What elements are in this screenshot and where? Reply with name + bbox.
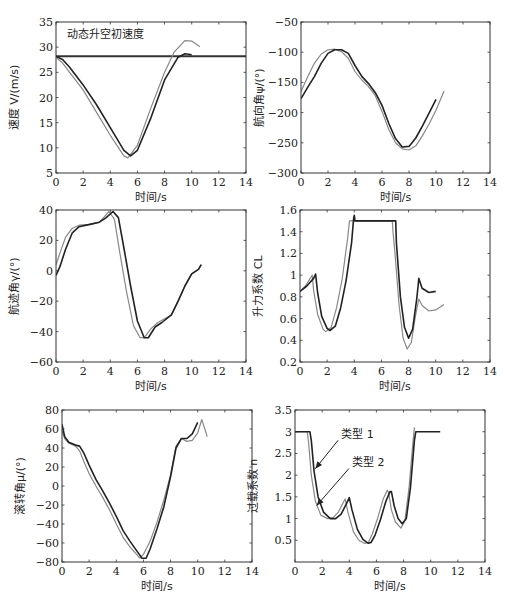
x-tick-label: 6 [373, 565, 380, 578]
x-tick-label: 12 [456, 176, 470, 189]
axes-frame [56, 22, 246, 173]
y-tick-label: 1.4 [280, 226, 298, 239]
y-tick-label: 1.6 [280, 204, 298, 217]
x-tick-label: 0 [59, 565, 66, 578]
y-tick-label: −100 [268, 46, 298, 59]
axes-frame [62, 410, 252, 562]
y-tick-label: 10 [39, 142, 53, 155]
x-tick-label: 0 [297, 365, 304, 378]
annotation-text: 类型 2 [352, 455, 385, 469]
series-line [295, 432, 440, 544]
series-line [56, 212, 201, 338]
y-tick-label: 30 [39, 41, 53, 54]
x-tick-label: 8 [167, 565, 174, 578]
x-tick-label: 12 [218, 565, 232, 578]
x-tick-label: 4 [346, 565, 353, 578]
x-tick-label: 2 [324, 365, 331, 378]
x-tick-label: 8 [161, 365, 168, 378]
subplot-lift-coefficient: 024681012140.20.40.60.811.21.41.6时间/s升力系… [252, 204, 497, 393]
x-axis-label: 时间/s [141, 580, 173, 593]
y-tick-label: 2 [285, 469, 292, 482]
figure-canvas: 024681012145101520253035动态升空初速度时间/s速度 V/… [0, 0, 510, 602]
subplot-speed: 024681012145101520253035动态升空初速度时间/s速度 V/… [7, 16, 253, 204]
x-tick-label: 8 [400, 565, 407, 578]
y-tick-label: −250 [268, 137, 298, 150]
y-tick-label: 15 [39, 117, 53, 130]
x-tick-label: 0 [292, 565, 299, 578]
x-tick-label: 10 [424, 565, 438, 578]
x-tick-label: 2 [319, 565, 326, 578]
y-tick-label: −300 [268, 167, 298, 180]
x-tick-label: 14 [483, 176, 497, 189]
y-tick-label: −200 [268, 107, 298, 120]
y-tick-label: −80 [36, 556, 59, 569]
x-tick-label: 8 [161, 176, 168, 189]
y-tick-label: −60 [30, 356, 53, 369]
x-axis-label: 时间/s [135, 191, 167, 204]
x-tick-label: 10 [185, 365, 199, 378]
x-tick-label: 4 [113, 565, 120, 578]
x-tick-label: 6 [140, 565, 147, 578]
x-axis-label: 时间/s [379, 380, 411, 393]
y-tick-label: 1 [285, 513, 292, 526]
y-tick-label: 0.4 [280, 334, 298, 347]
x-tick-label: 10 [429, 176, 443, 189]
x-tick-label: 0 [53, 365, 60, 378]
y-tick-label: −50 [275, 16, 298, 29]
x-tick-label: 2 [80, 365, 87, 378]
x-tick-label: 0 [298, 176, 305, 189]
y-tick-label: 3.5 [275, 404, 293, 417]
x-tick-label: 12 [451, 565, 465, 578]
y-tick-label: 20 [39, 234, 53, 247]
y-tick-label: 0 [46, 265, 53, 278]
x-tick-label: 0 [53, 176, 60, 189]
series-line [56, 54, 192, 156]
x-tick-label: 12 [456, 365, 470, 378]
y-tick-label: 0.8 [280, 291, 298, 304]
x-tick-label: 6 [134, 365, 141, 378]
x-tick-label: 6 [134, 176, 141, 189]
x-tick-label: 14 [239, 365, 253, 378]
subplot-heading: 02468101214−300−250−200−150−100−50时间/s航向… [252, 16, 497, 204]
y-tick-label: 40 [39, 204, 53, 217]
y-tick-label: −60 [36, 537, 59, 550]
series-line [301, 49, 444, 150]
x-tick-label: 14 [478, 565, 492, 578]
subplot-roll-angle: 02468101214−80−60−40−20020406080时间/s滚转角μ… [13, 404, 259, 593]
y-tick-label: 0 [52, 480, 59, 493]
x-tick-label: 2 [80, 176, 87, 189]
y-tick-label: 2.5 [275, 447, 293, 460]
series-line [62, 422, 198, 558]
annotation-text: 类型 1 [341, 427, 374, 441]
y-tick-label: −40 [36, 518, 59, 531]
x-tick-label: 6 [379, 176, 386, 189]
y-tick-label: 0.2 [280, 356, 298, 369]
x-axis-label: 时间/s [135, 380, 167, 393]
y-tick-label: −40 [30, 326, 53, 339]
x-tick-label: 4 [351, 365, 358, 378]
y-axis-label: 过载系数 n [247, 459, 260, 513]
y-axis-label: 升力系数 CL [252, 254, 265, 316]
y-tick-label: 3 [285, 426, 292, 439]
series-line [295, 427, 414, 543]
subplot-load-factor: 024681012140.511.522.533.5类型 1类型 2时间/s过载… [247, 404, 492, 593]
y-tick-label: 20 [39, 92, 53, 105]
x-tick-label: 6 [378, 365, 385, 378]
y-axis-label: 航向角ψ/(°) [252, 68, 266, 126]
y-tick-label: 35 [39, 16, 53, 29]
y-tick-label: 0.5 [275, 534, 293, 547]
series-line [301, 50, 436, 147]
x-tick-label: 10 [191, 565, 205, 578]
y-axis-label: 航迹角γ/(°) [7, 257, 21, 314]
x-axis-label: 时间/s [374, 580, 406, 593]
y-tick-label: 1 [290, 269, 297, 282]
x-tick-label: 12 [212, 365, 226, 378]
x-tick-label: 4 [352, 176, 359, 189]
x-tick-label: 8 [405, 365, 412, 378]
x-axis-label: 时间/s [380, 191, 412, 204]
y-tick-label: −20 [36, 499, 59, 512]
subplot-flight-path-angle: 02468101214−60−40−2002040时间/s航迹角γ/(°) [7, 204, 253, 393]
axes-frame [295, 410, 485, 562]
y-tick-label: 1.2 [280, 247, 298, 260]
y-tick-label: 80 [45, 404, 59, 417]
